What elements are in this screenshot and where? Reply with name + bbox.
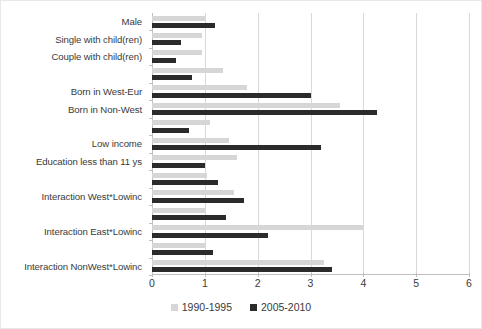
x-tick-label-2: 2 [255,277,261,289]
bar-1990-1995 [152,103,340,108]
bar-2005-2010 [152,58,176,63]
bar-1990-1995 [152,85,247,90]
category-label: Interaction East*Lowinc [1,223,148,240]
x-tick-label-3: 3 [308,277,314,289]
gridline-6 [469,13,470,275]
bar-1990-1995 [152,155,237,160]
x-tick-mark [258,273,259,277]
bar-group [152,170,469,187]
legend-item: 2005-2010 [250,301,311,313]
bar-group [152,65,469,82]
x-tick-mark [363,273,364,277]
bar-group [152,223,469,240]
x-tick-label-6: 6 [466,277,472,289]
bar-1990-1995 [152,208,205,213]
x-tick-mark [152,273,153,277]
chart-legend: 1990-19952005-2010 [1,301,481,313]
bar-2005-2010 [152,128,189,133]
bar-1990-1995 [152,260,324,265]
category-label: Interaction NonWest*Lowinc [1,258,148,275]
bar-group [152,205,469,222]
category-label: Male [1,13,148,30]
category-label: Low income [1,135,148,152]
bar-group [152,135,469,152]
bar-2005-2010 [152,215,226,220]
dark-swatch [250,304,257,311]
bar-group [152,100,469,117]
category-axis-labels: MaleSingle with child(ren)Couple with ch… [1,13,148,275]
x-tick-mark [416,273,417,277]
value-axis-tick-labels: 0123456 [152,277,469,295]
bar-2005-2010 [152,93,311,98]
bar-group [152,30,469,47]
x-tick-label-5: 5 [413,277,419,289]
bar-1990-1995 [152,50,202,55]
bar-group [152,188,469,205]
bar-1990-1995 [152,120,210,125]
category-label: Education less than 11 ys [1,153,148,170]
bar-chart: MaleSingle with child(ren)Couple with ch… [0,0,482,329]
bar-1990-1995 [152,68,223,73]
category-label: Born in West-Eur [1,83,148,100]
bar-2005-2010 [152,163,205,168]
bar-2005-2010 [152,267,332,272]
bar-group [152,13,469,30]
x-tick-label-4: 4 [360,277,366,289]
bar-1990-1995 [152,243,205,248]
category-label: Couple with child(ren) [1,48,148,65]
bar-1990-1995 [152,225,363,230]
bar-2005-2010 [152,23,215,28]
bar-2005-2010 [152,180,218,185]
bar-1990-1995 [152,16,205,21]
bar-1990-1995 [152,173,207,178]
light-gray-swatch [171,304,178,311]
category-label: Interaction West*Lowinc [1,188,148,205]
legend-label: 2005-2010 [261,301,311,313]
bar-2005-2010 [152,250,213,255]
bar-group [152,240,469,257]
x-tick-label-0: 0 [149,277,155,289]
bar-group [152,118,469,135]
legend-label: 1990-1995 [182,301,232,313]
bar-2005-2010 [152,40,181,45]
category-label: Single with child(ren) [1,30,148,47]
x-tick-label-1: 1 [202,277,208,289]
bar-2005-2010 [152,198,244,203]
bar-group [152,48,469,65]
x-tick-mark [205,273,206,277]
bar-group [152,153,469,170]
bar-1990-1995 [152,138,229,143]
bar-2005-2010 [152,145,321,150]
category-label: Born in Non-West [1,100,148,117]
bar-2005-2010 [152,75,192,80]
x-tick-mark [469,273,470,277]
bar-group [152,83,469,100]
bar-1990-1995 [152,33,202,38]
bar-2005-2010 [152,233,268,238]
bar-1990-1995 [152,190,234,195]
bar-2005-2010 [152,110,377,115]
x-tick-mark [311,273,312,277]
legend-item: 1990-1995 [171,301,232,313]
plot-area [152,13,469,275]
